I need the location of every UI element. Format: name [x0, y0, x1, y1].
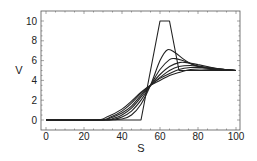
x-tick-label: 0	[43, 131, 49, 142]
x-tick-label: 100	[228, 131, 245, 142]
x-tick-label: 80	[192, 131, 204, 142]
y-tick-label: 10	[26, 16, 38, 27]
x-tick-label: 60	[154, 131, 166, 142]
x-tick-label: 40	[116, 131, 128, 142]
y-tick-label: 4	[31, 75, 37, 86]
y-tick-label: 2	[31, 95, 37, 106]
x-axis-label: S	[137, 142, 144, 154]
y-tick-label: 8	[31, 35, 37, 46]
y-tick-labels: 0246810	[26, 16, 38, 126]
line-chart: 020406080100 0246810 S V	[0, 0, 257, 161]
y-axis-label: V	[15, 64, 23, 76]
y-tick-label: 0	[31, 115, 37, 126]
data-series	[46, 21, 236, 120]
x-tick-label: 20	[78, 131, 90, 142]
x-tick-labels: 020406080100	[43, 131, 245, 142]
y-tick-label: 6	[31, 55, 37, 66]
series-line	[46, 49, 236, 120]
series-line	[46, 67, 236, 120]
